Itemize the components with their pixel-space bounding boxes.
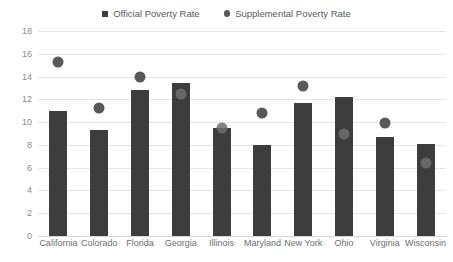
y-axis-tick-label: 8 xyxy=(2,140,32,150)
data-point-marker[interactable] xyxy=(53,56,64,67)
y-axis-tick-label: 0 xyxy=(2,231,32,241)
legend-label-supplemental: Supplemental Poverty Rate xyxy=(235,8,351,19)
category-slot xyxy=(283,31,324,236)
x-axis-tick-label: Colorado xyxy=(81,238,118,248)
category-slot xyxy=(364,31,405,236)
y-axis-tick-label: 12 xyxy=(2,94,32,104)
data-point-marker[interactable] xyxy=(298,80,309,91)
x-axis-tick-label: Wisconsin xyxy=(405,238,446,248)
bar[interactable] xyxy=(49,111,67,236)
bar[interactable] xyxy=(253,145,271,236)
x-axis-tick-label: California xyxy=(39,238,77,248)
x-axis-tick-label: Virginia xyxy=(370,238,400,248)
data-series-group xyxy=(38,31,446,236)
data-point-marker[interactable] xyxy=(135,71,146,82)
bar[interactable] xyxy=(131,90,149,236)
gridline xyxy=(38,236,446,237)
x-axis: CaliforniaColoradoFloridaGeorgiaIllinois… xyxy=(38,238,446,254)
x-axis-tick-label: Ohio xyxy=(334,238,353,248)
x-axis-tick-label: Florida xyxy=(126,238,154,248)
x-axis-tick-label: New York xyxy=(284,238,322,248)
y-axis-tick-label: 14 xyxy=(2,72,32,82)
poverty-rate-chart: Official Poverty Rate Supplemental Pover… xyxy=(0,0,453,262)
data-point-marker[interactable] xyxy=(216,122,227,133)
y-axis-tick-label: 10 xyxy=(2,117,32,127)
bar[interactable] xyxy=(376,137,394,236)
data-point-marker[interactable] xyxy=(339,128,350,139)
y-axis-tick-label: 4 xyxy=(2,185,32,195)
bar[interactable] xyxy=(213,128,231,236)
legend-item-supplemental[interactable]: Supplemental Poverty Rate xyxy=(224,8,351,19)
square-marker-icon xyxy=(102,11,108,17)
legend-item-official[interactable]: Official Poverty Rate xyxy=(102,8,199,19)
category-slot xyxy=(160,31,201,236)
data-point-marker[interactable] xyxy=(175,88,186,99)
bar[interactable] xyxy=(335,97,353,236)
x-axis-tick-label: Georgia xyxy=(165,238,197,248)
y-axis-tick-label: 18 xyxy=(2,26,32,36)
plot-area xyxy=(38,31,446,236)
bar[interactable] xyxy=(172,83,190,236)
category-slot xyxy=(120,31,161,236)
y-axis-tick-label: 6 xyxy=(2,163,32,173)
data-point-marker[interactable] xyxy=(257,108,268,119)
legend-label-official: Official Poverty Rate xyxy=(113,8,199,19)
category-slot xyxy=(405,31,446,236)
x-axis-tick-label: Maryland xyxy=(244,238,281,248)
category-slot xyxy=(242,31,283,236)
bar[interactable] xyxy=(90,130,108,236)
circle-marker-icon xyxy=(224,10,231,17)
category-slot xyxy=(201,31,242,236)
y-axis-tick-label: 16 xyxy=(2,49,32,59)
data-point-marker[interactable] xyxy=(379,118,390,129)
bar[interactable] xyxy=(294,103,312,236)
y-axis: 024681012141618 xyxy=(0,31,32,236)
y-axis-tick-label: 2 xyxy=(2,208,32,218)
x-axis-tick-label: Illinois xyxy=(209,238,234,248)
data-point-marker[interactable] xyxy=(420,158,431,169)
category-slot xyxy=(79,31,120,236)
chart-legend: Official Poverty Rate Supplemental Pover… xyxy=(0,8,453,19)
data-point-marker[interactable] xyxy=(94,103,105,114)
